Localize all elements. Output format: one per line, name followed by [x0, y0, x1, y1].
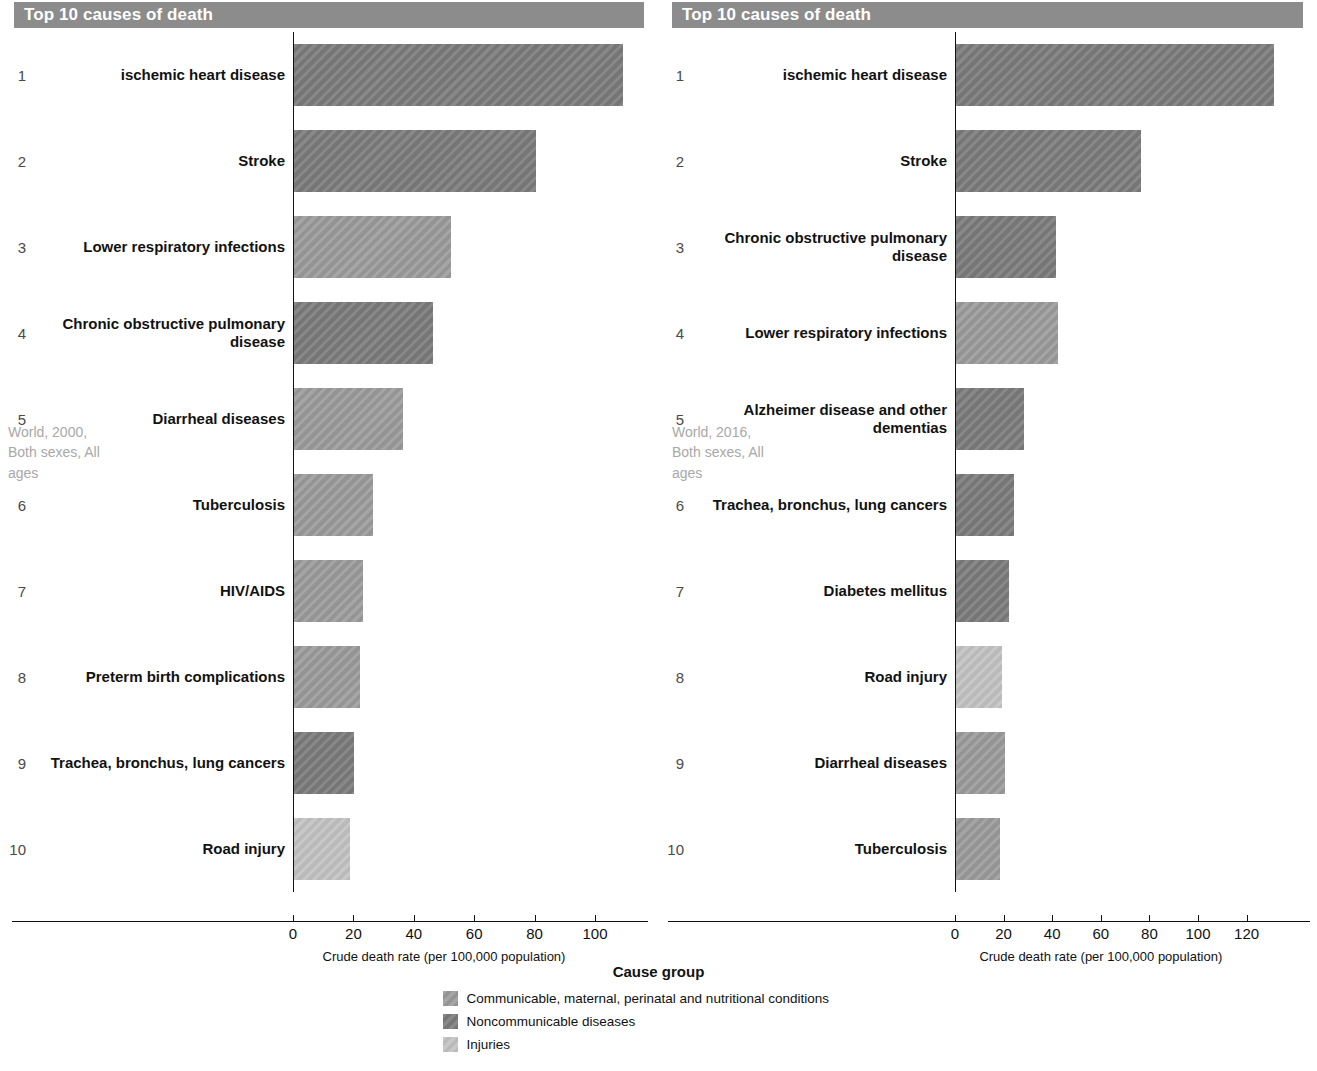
bar[interactable] — [956, 388, 1024, 450]
bar-track — [955, 290, 1316, 376]
bar-rank: 2 — [658, 153, 684, 170]
bar-row-labels: 5Alzheimer disease and other dementias — [658, 401, 955, 436]
bar[interactable] — [956, 44, 1274, 106]
bar-rank: 10 — [658, 841, 684, 858]
bar-track — [955, 634, 1316, 720]
bar-category-label: Tuberculosis — [26, 496, 293, 514]
bar[interactable] — [956, 560, 1009, 622]
legend-items: Communicable, maternal, perinatal and nu… — [424, 987, 894, 1056]
legend-label: Noncommunicable diseases — [467, 1014, 636, 1029]
bar-row: 8Road injury — [658, 634, 1317, 720]
x-tick-label: 40 — [405, 925, 422, 942]
bar[interactable] — [956, 130, 1141, 192]
bar-row-labels: 4Lower respiratory infections — [658, 324, 955, 342]
legend-label: Communicable, maternal, perinatal and nu… — [467, 991, 829, 1006]
bar-rank: 8 — [658, 669, 684, 686]
legend-label: Injuries — [467, 1037, 511, 1052]
bar[interactable] — [956, 302, 1058, 364]
legend-title: Cause group — [0, 963, 1317, 980]
bar-row-labels: 1ischemic heart disease — [658, 66, 955, 84]
bar-row-labels: 6Tuberculosis — [0, 496, 293, 514]
bar-track — [293, 720, 658, 806]
bar[interactable] — [294, 44, 623, 106]
bar-rank: 6 — [0, 497, 26, 514]
x-tick — [293, 915, 294, 921]
bar[interactable] — [294, 646, 360, 708]
chart-panel-2016: Top 10 causes of death World, 2016, Both… — [658, 0, 1317, 892]
bar-category-label: Preterm birth complications — [26, 668, 293, 686]
bar-rank: 7 — [0, 583, 26, 600]
bar[interactable] — [956, 818, 1000, 880]
x-tick — [1004, 915, 1005, 921]
legend: Cause group Communicable, maternal, peri… — [0, 963, 1317, 1056]
bar-row: 1ischemic heart disease — [658, 32, 1317, 118]
bar-row: 3Lower respiratory infections — [0, 204, 658, 290]
bar-row-labels: 2Stroke — [0, 152, 293, 170]
bar-track — [293, 462, 658, 548]
bar-category-label: HIV/AIDS — [26, 582, 293, 600]
bar-rows-right: 1ischemic heart disease2Stroke3Chronic o… — [658, 32, 1317, 892]
bar[interactable] — [294, 388, 403, 450]
bar[interactable] — [956, 474, 1014, 536]
x-axis-line-right — [668, 921, 1310, 922]
x-tick-label: 20 — [995, 925, 1012, 942]
bar-rank: 5 — [0, 411, 26, 428]
bar-row: 7HIV/AIDS — [0, 548, 658, 634]
bar-row-labels: 9Trachea, bronchus, lung cancers — [0, 754, 293, 772]
bar-track — [293, 806, 658, 892]
bar-rows-left: 1ischemic heart disease2Stroke3Lower res… — [0, 32, 658, 892]
panel-title-left: Top 10 causes of death — [14, 5, 213, 25]
legend-item[interactable]: Noncommunicable diseases — [443, 1010, 894, 1033]
bar-category-label: Road injury — [26, 840, 293, 858]
bar-row: 5Alzheimer disease and other dementias — [658, 376, 1317, 462]
bar-row: 4Chronic obstructive pulmonary disease — [0, 290, 658, 376]
bar-category-label: Chronic obstructive pulmonary disease — [26, 315, 293, 350]
panel-title-right: Top 10 causes of death — [672, 5, 871, 25]
x-tick-label: 80 — [1141, 925, 1158, 942]
bar-row-labels: 7Diabetes mellitus — [658, 582, 955, 600]
x-axis-caption-right: Crude death rate (per 100,000 population… — [979, 949, 1222, 964]
bar[interactable] — [294, 732, 354, 794]
bar-rank: 4 — [658, 325, 684, 342]
bar-rank: 5 — [658, 411, 684, 428]
bar-row-labels: 8Road injury — [658, 668, 955, 686]
bar-category-label: Diarrheal diseases — [684, 754, 955, 772]
legend-item[interactable]: Communicable, maternal, perinatal and nu… — [443, 987, 894, 1010]
legend-swatch-icon — [443, 991, 458, 1006]
bar[interactable] — [956, 732, 1005, 794]
bar-track — [955, 720, 1316, 806]
bar-category-label: Stroke — [26, 152, 293, 170]
bar-track — [293, 548, 658, 634]
bar[interactable] — [294, 302, 433, 364]
bar-row-labels: 3Chronic obstructive pulmonary disease — [658, 229, 955, 264]
bar[interactable] — [956, 216, 1056, 278]
x-tick — [1198, 915, 1199, 921]
bar[interactable] — [294, 474, 373, 536]
legend-item[interactable]: Injuries — [443, 1033, 894, 1056]
bar-rank: 10 — [0, 841, 26, 858]
bar-row: 6Trachea, bronchus, lung cancers — [658, 462, 1317, 548]
legend-swatch-icon — [443, 1014, 458, 1029]
x-tick — [1247, 915, 1248, 921]
bar-row: 2Stroke — [658, 118, 1317, 204]
bar-category-label: Trachea, bronchus, lung cancers — [684, 496, 955, 514]
x-tick — [595, 915, 596, 921]
bar[interactable] — [294, 130, 536, 192]
y-axis-line-left — [293, 32, 294, 892]
bar-category-label: Tuberculosis — [684, 840, 955, 858]
bar[interactable] — [956, 646, 1002, 708]
bar-row-labels: 2Stroke — [658, 152, 955, 170]
bar[interactable] — [294, 818, 350, 880]
bar-row-labels: 5Diarrheal diseases — [0, 410, 293, 428]
bar-track — [293, 118, 658, 204]
bar-track — [955, 204, 1316, 290]
x-tick — [1149, 915, 1150, 921]
x-tick-label: 60 — [466, 925, 483, 942]
bar-row: 9Diarrheal diseases — [658, 720, 1317, 806]
bar-row: 9Trachea, bronchus, lung cancers — [0, 720, 658, 806]
bar[interactable] — [294, 216, 451, 278]
bar-row-labels: 10Tuberculosis — [658, 840, 955, 858]
bar[interactable] — [294, 560, 363, 622]
x-tick — [414, 915, 415, 921]
bar-track — [955, 806, 1316, 892]
